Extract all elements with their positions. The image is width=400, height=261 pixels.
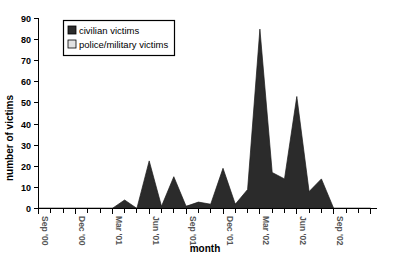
y-axis-title: number of victims xyxy=(4,95,15,182)
x-axis-title: month xyxy=(190,243,221,254)
y-tick-label: 0 xyxy=(26,204,31,214)
legend-label-police-military: police/military victims xyxy=(79,39,168,50)
dark-square-icon xyxy=(68,26,76,34)
victims-area-chart: 90 80 70 60 50 40 30 20 10 0 xyxy=(0,0,400,261)
light-square-icon xyxy=(68,40,76,48)
y-tick-label: 50 xyxy=(21,98,31,108)
x-tick-label: Dec '00 xyxy=(77,216,87,246)
y-tick-label: 30 xyxy=(21,141,31,151)
y-tick-marks xyxy=(34,19,39,209)
chart-container: 90 80 70 60 50 40 30 20 10 0 xyxy=(0,0,400,261)
x-tick-label: Sep '01 xyxy=(188,216,198,246)
chart-legend: civilian victims police/military victims xyxy=(64,21,175,56)
x-tick-label: Dec '01 xyxy=(225,216,235,246)
y-tick-label: 10 xyxy=(21,183,31,193)
x-tick-marks xyxy=(39,209,371,215)
x-tick-label: Mar '01 xyxy=(114,216,124,245)
y-tick-labels: 90 80 70 60 50 40 30 20 10 0 xyxy=(21,14,31,214)
y-tick-label: 40 xyxy=(21,120,31,130)
x-tick-label: Sep '02 xyxy=(335,216,345,246)
y-tick-label: 60 xyxy=(21,77,31,87)
y-tick-label: 80 xyxy=(21,35,31,45)
y-tick-label: 20 xyxy=(21,162,31,172)
x-tick-label: Jun '02 xyxy=(298,216,308,245)
y-tick-label: 70 xyxy=(21,56,31,66)
x-tick-labels: Sep '00 Dec '00 Mar '01 Jun '01 Sep '01 … xyxy=(40,216,345,246)
x-tick-label: Jun '01 xyxy=(151,216,161,245)
legend-label-civilian: civilian victims xyxy=(79,25,139,36)
y-tick-label: 90 xyxy=(21,14,31,24)
x-tick-label: Sep '00 xyxy=(40,216,50,246)
x-tick-label: Mar '02 xyxy=(261,216,271,245)
